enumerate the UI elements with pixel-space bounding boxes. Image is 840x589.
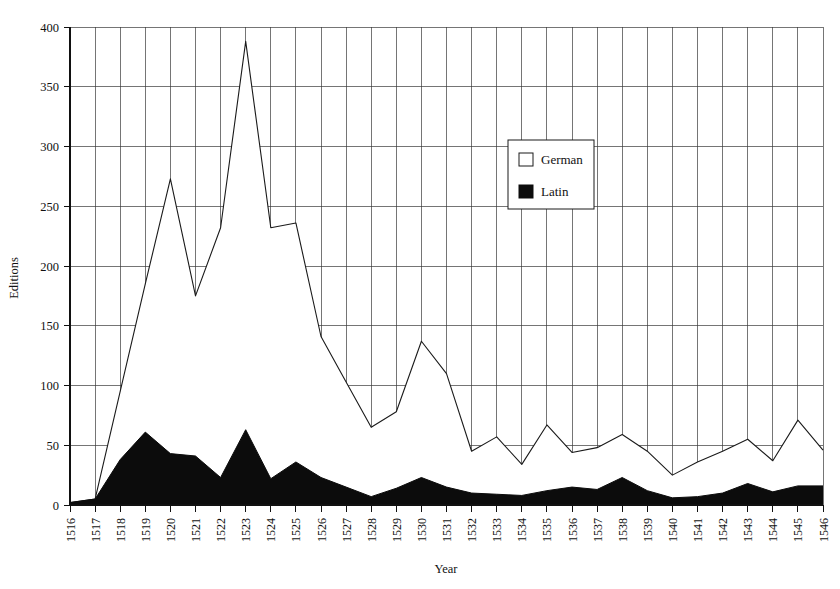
- x-axis-tick-label: 1537: [591, 518, 605, 542]
- x-axis-tick-label: 1545: [791, 518, 805, 542]
- x-axis-tick-label: 1520: [164, 518, 178, 542]
- x-axis-tick-label: 1543: [741, 518, 755, 542]
- x-axis-tick-label: 1540: [666, 518, 680, 542]
- legend-label-latin: Latin: [541, 184, 569, 199]
- chart-canvas: 400350300250200150100500 151615171518151…: [0, 0, 840, 589]
- legend-swatch-german-icon: [519, 153, 533, 166]
- chart-legend: German Latin: [508, 140, 594, 209]
- y-axis-tick-label: 400: [40, 21, 59, 35]
- y-axis-tick-label: 350: [40, 80, 59, 94]
- x-axis-tick-label: 1538: [616, 518, 630, 542]
- x-axis-tick-label: 1531: [440, 518, 454, 542]
- x-axis-tick-label: 1532: [465, 518, 479, 542]
- x-axis-tick-label: 1546: [817, 518, 831, 542]
- y-axis-title: Editions: [7, 257, 21, 299]
- x-axis-tick-label: 1526: [315, 518, 329, 542]
- x-axis-tick-label: 1518: [114, 518, 128, 542]
- legend-label-german: German: [541, 152, 583, 167]
- x-axis-tick-label: 1535: [540, 518, 554, 542]
- x-axis-tick-label: 1519: [139, 518, 153, 542]
- x-axis-tick-label: 1541: [691, 518, 705, 542]
- x-axis-tick-label: 1533: [490, 518, 504, 542]
- x-axis-tick-label: 1534: [515, 518, 529, 542]
- y-axis-tick-label: 150: [40, 319, 59, 333]
- x-axis-tick-label: 1522: [214, 518, 228, 542]
- x-axis-tick-label: 1529: [390, 518, 404, 542]
- y-axis-tick-label: 300: [40, 140, 59, 154]
- x-axis-tick-label: 1528: [365, 518, 379, 542]
- x-axis-tick-label: 1536: [566, 518, 580, 542]
- x-axis-tick-label: 1542: [716, 518, 730, 542]
- y-axis-tick-label: 100: [40, 379, 59, 393]
- x-axis-tick-label: 1517: [89, 518, 103, 542]
- x-axis-tick-label: 1524: [264, 518, 278, 542]
- x-axis-tick-label: 1516: [64, 518, 78, 542]
- x-axis-title: Year: [434, 562, 458, 576]
- y-axis-tick-label: 50: [47, 439, 60, 453]
- y-axis-tick-label: 0: [53, 499, 59, 513]
- x-axis-tick-label: 1527: [340, 518, 354, 542]
- y-axis-tick-label: 250: [40, 200, 59, 214]
- legend-swatch-latin-icon: [519, 185, 533, 198]
- x-axis-tick-label: 1544: [766, 518, 780, 542]
- x-axis-tick-label: 1521: [189, 518, 203, 542]
- x-axis-tick-label: 1530: [415, 518, 429, 542]
- y-axis-tick-label: 200: [40, 260, 59, 274]
- x-axis-tick-label: 1539: [641, 518, 655, 542]
- x-axis-tick-label: 1525: [289, 518, 303, 542]
- x-axis-tick-label: 1523: [239, 518, 253, 542]
- chart-figure: 400350300250200150100500 151615171518151…: [0, 0, 840, 589]
